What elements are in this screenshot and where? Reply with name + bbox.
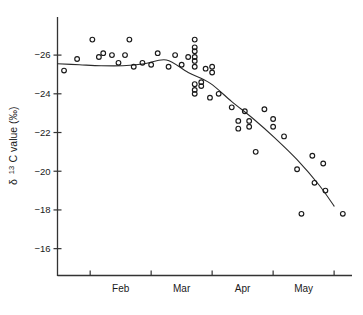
data-point [127, 37, 132, 42]
data-point [90, 37, 95, 42]
data-point [116, 60, 121, 65]
y-tick-label: −26 [34, 49, 50, 60]
delta-symbol: δ [7, 179, 19, 185]
data-point [192, 37, 197, 42]
data-point [271, 124, 276, 129]
data-point [179, 62, 184, 67]
x-axis-month-label-may: May [294, 283, 313, 294]
x-axis-month-label-apr: Apr [235, 283, 251, 294]
data-point [210, 70, 215, 75]
data-point [299, 211, 304, 216]
y-axis-title: δ 13 C value (‰) [4, 106, 20, 185]
data-point [295, 167, 300, 172]
data-point [247, 124, 252, 129]
y-tick-label: −20 [34, 166, 50, 177]
data-point [97, 55, 102, 60]
data-point [312, 180, 317, 185]
data-point-markers [62, 37, 345, 216]
data-point [340, 211, 345, 216]
data-point [253, 150, 258, 155]
data-point [62, 68, 67, 73]
data-point [203, 66, 208, 71]
superscript-13: 13 [7, 166, 16, 174]
data-point [123, 53, 128, 58]
data-point [110, 53, 115, 58]
scatter-plot: δ 13 C value (‰) −26−24−22−20−18−16 FebM… [0, 0, 363, 315]
data-point [236, 126, 241, 131]
data-point [101, 51, 106, 56]
x-axis-month-labels: FebMarAprMay [112, 283, 313, 294]
data-point [192, 82, 197, 87]
data-point [271, 117, 276, 122]
data-point [262, 107, 267, 112]
data-point [208, 95, 213, 100]
x-axis-month-label-mar: Mar [173, 283, 191, 294]
data-point [216, 91, 221, 96]
data-point [229, 105, 234, 110]
data-point [247, 119, 252, 124]
data-point [236, 119, 241, 124]
data-point [173, 53, 178, 58]
data-point [149, 62, 154, 67]
data-point [166, 64, 171, 69]
data-point [210, 64, 215, 69]
data-point [310, 153, 315, 158]
y-tick-label: −18 [34, 204, 50, 215]
data-point [282, 134, 287, 139]
chart-figure: δ 13 C value (‰) −26−24−22−20−18−16 FebM… [0, 0, 363, 315]
y-tick-label: −16 [34, 243, 50, 254]
y-tick-label: −22 [34, 127, 50, 138]
data-point [155, 51, 160, 56]
data-point [186, 55, 191, 60]
data-point [321, 161, 326, 166]
data-point [75, 57, 80, 62]
x-axis-month-label-feb: Feb [112, 283, 130, 294]
y-axis-title-text: δ 13 C value (‰) [4, 106, 20, 185]
data-point [192, 64, 197, 69]
x-axis-ticks [90, 271, 334, 276]
y-axis-unit: C value (‰) [7, 106, 19, 162]
y-tick-label: −24 [34, 88, 50, 99]
